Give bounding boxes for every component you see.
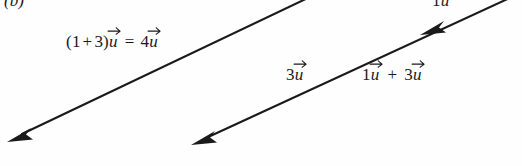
scalar-one: 1 bbox=[362, 65, 371, 84]
label-distributive-sum: (1+3)u=4u bbox=[66, 33, 159, 50]
plus-operator: + bbox=[81, 32, 95, 51]
vector-symbol: u bbox=[371, 65, 380, 84]
label-one-u-plus-three-u: 1u+3u bbox=[362, 66, 423, 83]
vector-u: u bbox=[109, 33, 119, 50]
scalar-three: 3 bbox=[94, 32, 103, 51]
vector-symbol: u bbox=[149, 32, 158, 51]
lower-right-vector-shaft bbox=[206, 0, 514, 138]
vector-arrows-canvas bbox=[0, 0, 522, 166]
scalar-three: 3 bbox=[286, 65, 295, 84]
vector-symbol: u bbox=[295, 65, 304, 84]
label-three-u: 3u bbox=[286, 66, 304, 83]
lower-right-vector-arrow bbox=[191, 0, 514, 145]
scalar-four: 4 bbox=[140, 32, 149, 51]
scalar-one: 1 bbox=[72, 32, 81, 51]
equals-operator: = bbox=[119, 32, 141, 51]
vector-u-first: u bbox=[371, 66, 381, 83]
upper-left-vector-arrow bbox=[7, 0, 312, 142]
vector-u-result: u bbox=[149, 33, 159, 50]
scalar-one: 1 bbox=[432, 0, 441, 10]
vector-addition-figure: (b) (1+3)u=4u 3u 1u+3u 1u bbox=[0, 0, 522, 166]
upper-left-vector-arrowhead bbox=[7, 128, 33, 142]
vector-u: u bbox=[441, 0, 451, 9]
vector-symbol: u bbox=[441, 0, 450, 10]
vector-u-second: u bbox=[413, 66, 423, 83]
vector-symbol: u bbox=[109, 32, 118, 51]
upper-left-vector-shaft bbox=[22, 0, 312, 134]
lower-right-vector-arrowhead bbox=[191, 131, 217, 145]
vector-u: u bbox=[295, 66, 305, 83]
plus-operator: + bbox=[380, 65, 404, 84]
label-one-u-clipped: 1u bbox=[432, 0, 450, 9]
vector-symbol: u bbox=[413, 65, 422, 84]
scalar-three: 3 bbox=[404, 65, 413, 84]
